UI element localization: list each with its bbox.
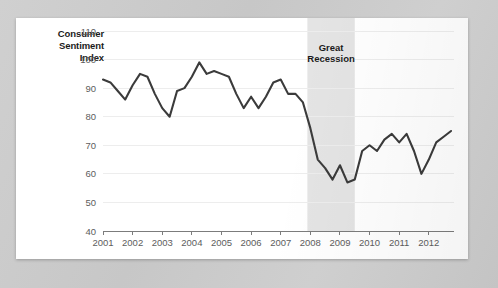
x-tick-label: 2002 xyxy=(122,237,143,248)
x-tick-label: 2005 xyxy=(211,237,232,248)
x-tick-label: 2010 xyxy=(359,237,380,248)
y-tick-label: 70 xyxy=(85,140,96,151)
x-axis xyxy=(103,231,454,235)
x-axis-tick-labels: 2001200220032004200520062007200820092010… xyxy=(92,237,439,248)
great-recession-label-line-1: Great xyxy=(319,42,345,53)
x-tick-label: 2012 xyxy=(418,237,439,248)
y-tick-label: 80 xyxy=(85,111,96,122)
y-tick-label: 110 xyxy=(81,26,96,37)
x-tick-label: 2007 xyxy=(270,237,291,248)
y-tick-label: 40 xyxy=(85,226,96,237)
chart-card: Consumer Sentiment Index 405060708090100… xyxy=(16,18,468,259)
y-axis-tick-labels: 405060708090100110 xyxy=(80,26,96,237)
x-tick-label: 2006 xyxy=(241,237,262,248)
x-tick-label: 2001 xyxy=(92,237,113,248)
sentiment-series-line xyxy=(103,62,451,182)
consumer-sentiment-line-chart: 405060708090100110 200120022003200420052… xyxy=(16,18,468,259)
y-tick-label: 90 xyxy=(85,83,96,94)
x-tick-label: 2008 xyxy=(300,237,321,248)
x-tick-label: 2011 xyxy=(389,237,409,248)
y-tick-label: 60 xyxy=(85,168,96,179)
great-recession-label-line-2: Recession xyxy=(307,53,355,64)
gridlines xyxy=(103,31,454,202)
x-tick-label: 2004 xyxy=(181,237,202,248)
y-tick-label: 50 xyxy=(85,197,96,208)
x-tick-label: 2003 xyxy=(152,237,173,248)
x-tick-label: 2009 xyxy=(329,237,350,248)
y-tick-label: 100 xyxy=(80,54,96,65)
